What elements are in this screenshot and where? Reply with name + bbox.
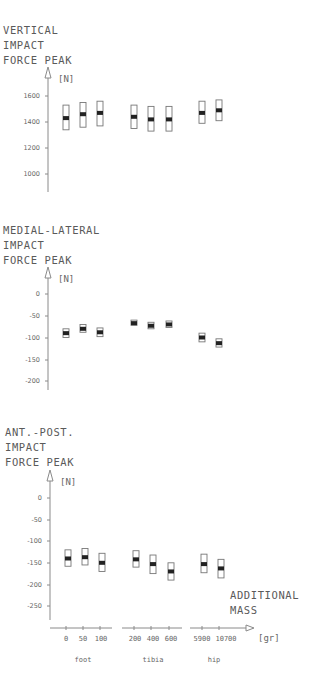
panel-title-line: MEDIAL-LATERAL [3, 224, 100, 236]
y-tick-label: -250 [27, 602, 42, 610]
data-boxes [65, 549, 224, 581]
panel-title-line: FORCE PEAK [3, 254, 72, 266]
panel-title-line: VERTICAL [3, 24, 58, 36]
mean-marker [82, 555, 88, 559]
panel-title-line: IMPACT [5, 441, 47, 453]
mean-marker [63, 116, 69, 120]
data-boxes [63, 100, 222, 131]
mean-marker [199, 111, 205, 115]
group-label-foot: foot [75, 656, 92, 664]
panel-title-line: FORCE PEAK [5, 456, 74, 468]
y-tick-label: 0 [36, 290, 40, 298]
mean-marker [218, 566, 224, 570]
mean-marker [97, 111, 103, 115]
y-tick-label: 1000 [23, 170, 40, 178]
y-tick-label: -200 [27, 581, 42, 589]
panel-title-line: IMPACT [3, 239, 45, 251]
y-tick-label: -100 [27, 537, 42, 545]
mean-marker [168, 569, 174, 573]
x-tick-label: 10700 [215, 635, 236, 643]
y-tick-label: 1200 [23, 144, 40, 152]
y-axis-arrow-icon [45, 67, 51, 78]
mean-marker [99, 561, 105, 565]
x-axis-title-line: MASS [230, 604, 258, 616]
panel-title-line: FORCE PEAK [3, 54, 72, 66]
mean-marker [148, 324, 154, 328]
y-axis-arrow-icon [47, 470, 53, 481]
y-tick-label: -150 [25, 356, 40, 364]
mean-marker [201, 562, 207, 566]
y-tick-label: 1400 [23, 118, 40, 126]
y-tick-label: -200 [25, 377, 40, 385]
x-axis-arrow-icon [246, 625, 254, 631]
y-ticks: 0 -50 -100 -150 -200 -250 [27, 494, 50, 610]
panel-title-line: ANT.-POST. [5, 426, 74, 438]
mean-marker [131, 321, 137, 325]
y-ticks: 0 -50 -100 -150 -200 [25, 290, 48, 385]
mean-marker [199, 336, 205, 340]
mean-marker [150, 562, 156, 566]
x-axis [50, 625, 254, 631]
x-tick-label: 200 [129, 635, 142, 643]
y-axis-arrow-icon [45, 267, 51, 278]
mean-marker [80, 327, 86, 331]
mean-marker [133, 557, 139, 561]
mean-marker [131, 115, 137, 119]
y-unit-label: [N] [58, 74, 74, 84]
data-boxes [63, 320, 222, 347]
y-ticks: 1600 1400 1200 1000 [23, 92, 48, 178]
mean-marker [148, 117, 154, 121]
group-label-tibia: tibia [142, 656, 163, 664]
y-tick-label: 1600 [23, 92, 40, 100]
mean-marker [80, 112, 86, 116]
y-tick-label: -50 [31, 516, 42, 524]
mean-marker [65, 556, 71, 560]
mean-marker [216, 108, 222, 112]
y-tick-label: -50 [29, 312, 40, 320]
mean-marker [166, 117, 172, 121]
panel-vertical: VERTICAL IMPACT FORCE PEAK [N] 1600 1400… [3, 24, 222, 192]
panel-medial-lateral: MEDIAL-LATERAL IMPACT FORCE PEAK [N] 0 -… [3, 224, 222, 390]
x-tick-label: 0 [64, 635, 68, 643]
group-label-hip: hip [208, 656, 221, 664]
x-tick-label: 50 [79, 635, 87, 643]
mean-marker [63, 331, 69, 335]
y-tick-label: -100 [25, 334, 40, 342]
y-unit-label: [N] [58, 274, 74, 284]
x-axis-title-line: ADDITIONAL [230, 589, 299, 601]
mean-marker [216, 341, 222, 345]
x-tick-label: 100 [95, 635, 108, 643]
x-tick-label: 5900 [194, 635, 211, 643]
impact-force-figure: VERTICAL IMPACT FORCE PEAK [N] 1600 1400… [0, 0, 321, 682]
panel-title-line: IMPACT [3, 39, 45, 51]
mean-marker [97, 330, 103, 334]
y-tick-label: -150 [27, 559, 42, 567]
x-tick-label: 400 [147, 635, 160, 643]
panel-ant-post: ANT.-POST. IMPACT FORCE PEAK [N] 0 -50 -… [5, 426, 299, 664]
x-tick-labels: 0 50 100 200 400 600 5900 10700 [64, 635, 237, 643]
x-tick-label: 600 [165, 635, 178, 643]
x-unit-label: [gr] [258, 633, 280, 643]
y-tick-label: 0 [38, 494, 42, 502]
mean-marker [166, 322, 172, 326]
y-unit-label: [N] [60, 477, 76, 487]
